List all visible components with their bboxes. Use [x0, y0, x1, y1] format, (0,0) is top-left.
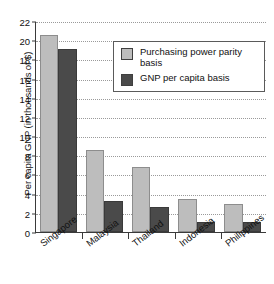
y-axis-tick-label: 14 — [19, 93, 36, 104]
x-axis-tick-mark — [221, 232, 222, 239]
legend-item: GNP per capita basis — [121, 73, 258, 86]
bar-group — [36, 22, 82, 232]
legend-label-gnp: GNP per capita basis — [140, 73, 230, 84]
y-axis-tick-label: 10 — [19, 132, 36, 143]
x-axis-tick-mark — [128, 232, 129, 239]
x-axis-tick-mark — [82, 232, 83, 239]
y-axis-tick-label: 8 — [25, 151, 36, 162]
y-axis-tick-label: 18 — [19, 55, 36, 66]
y-axis-tick-label: 6 — [25, 170, 36, 181]
x-axis-tick-mark — [175, 232, 176, 239]
legend: Purchasing power parity basis GNP per ca… — [113, 41, 265, 92]
y-axis-tick-label: 16 — [19, 74, 36, 85]
legend-swatch-gnp — [121, 74, 133, 86]
y-axis-tick-label: 20 — [19, 36, 36, 47]
y-axis-tick-label: 2 — [25, 208, 36, 219]
legend-swatch-ppp — [121, 48, 133, 60]
bar-chart: Per capita GNP (in thousands of $) 02468… — [0, 0, 274, 284]
y-axis-tick-label: 22 — [19, 17, 36, 28]
y-axis-tick-label: 4 — [25, 189, 36, 200]
legend-item: Purchasing power parity basis — [121, 47, 258, 68]
y-axis-tick-label: 0 — [25, 228, 36, 239]
legend-label-ppp: Purchasing power parity basis — [140, 47, 258, 68]
bar-ppp — [132, 167, 151, 232]
y-axis-tick-label: 12 — [19, 112, 36, 123]
bar-ppp — [86, 150, 105, 232]
bar-ppp — [40, 35, 59, 232]
bar-gnp — [58, 49, 77, 232]
